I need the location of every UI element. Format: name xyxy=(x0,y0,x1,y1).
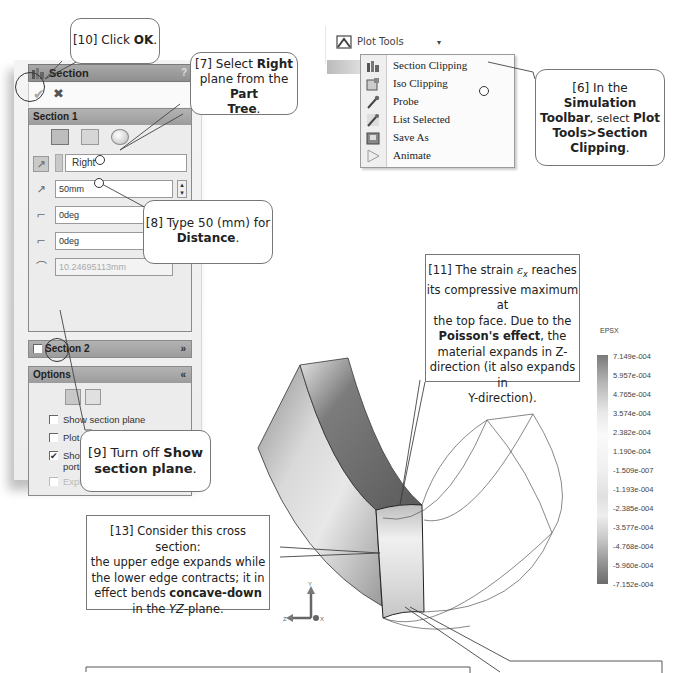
menu-item-list-selected[interactable]: List Selected xyxy=(361,111,514,129)
menu-item-save-as[interactable]: Save As xyxy=(361,129,514,147)
plot-tools-menu: Section Clipping Iso Clipping Probe List… xyxy=(360,54,515,168)
clipped-wireframe xyxy=(383,414,562,629)
callout-13: [13] Consider this cross section: the up… xyxy=(86,515,270,610)
panel-title-bar: Section ? xyxy=(28,64,192,82)
colorbar-tick: 7.149e-004 xyxy=(613,352,651,361)
section-clipping-icon xyxy=(366,59,380,73)
animate-icon xyxy=(366,149,380,163)
colorbar-tick: 2.382e-004 xyxy=(613,428,651,437)
reference-entity-icon[interactable]: ↗ xyxy=(33,156,49,172)
distance-spinner[interactable]: ▴▾ xyxy=(177,180,187,198)
show-section-plane-checkbox[interactable] xyxy=(49,415,58,424)
plot-on-section-only-checkbox[interactable] xyxy=(49,433,58,442)
panel-title: Section xyxy=(49,67,89,79)
show-contour-uncut-checkbox[interactable]: ✔ xyxy=(49,451,58,460)
help-icon[interactable]: ? xyxy=(181,65,187,81)
reference-marker-dot xyxy=(95,155,105,165)
options-label: Options xyxy=(33,369,71,380)
list-selected-icon xyxy=(366,113,380,127)
plot-tools-button[interactable]: Plot Tools xyxy=(357,36,404,47)
colorbar-tick: -3.577e-004 xyxy=(613,523,653,532)
spherical-section-button[interactable] xyxy=(111,129,129,145)
probe-icon xyxy=(366,95,380,109)
colorbar-tick: -7.152e-004 xyxy=(613,580,653,589)
radius-icon: ⌒ xyxy=(33,260,49,276)
explode-after-clipping-checkbox xyxy=(49,477,58,486)
colorbar xyxy=(597,355,608,584)
beam-side-face xyxy=(258,365,382,606)
reference-row: ↗ Right xyxy=(33,154,189,174)
solid-view-button[interactable] xyxy=(65,389,81,405)
distance-input[interactable]: 50mm xyxy=(55,180,173,198)
iso-clipping-icon xyxy=(366,77,380,91)
callout-8: [8] Type 50 (mm) for Distance. xyxy=(143,200,273,264)
colorbar-tick: -1.193e-004 xyxy=(613,485,653,494)
distance-row: ↗ 50mm ▴▾ xyxy=(33,180,189,200)
plot-tools-icon[interactable] xyxy=(336,35,352,49)
save-as-icon xyxy=(366,131,380,145)
callout-6: [6] In the Simulation Toolbar, select Pl… xyxy=(535,69,665,166)
colorbar-tick: -2.385e-004 xyxy=(613,504,653,513)
colorbar-tick: 1.190e-004 xyxy=(613,447,651,456)
menu-item-animate[interactable]: Animate xyxy=(361,147,514,165)
beam-cross-section xyxy=(376,505,424,618)
callout-11: [11] The strain εx reaches its compressi… xyxy=(425,254,580,382)
section2-checkbox[interactable] xyxy=(33,344,42,353)
reference-color-swatch xyxy=(55,154,63,172)
menu-item-iso-clipping[interactable]: Iso Clipping xyxy=(361,75,514,93)
menu-item-section-clipping[interactable]: Section Clipping xyxy=(361,57,514,75)
colorbar-tick: 3.574e-004 xyxy=(613,409,651,418)
svg-text:Y: Y xyxy=(308,581,312,587)
rotate-x-icon: ⌐ xyxy=(33,208,49,224)
transparent-view-button[interactable] xyxy=(85,389,101,405)
callout-7: [7] Select Right plane from the Part Tre… xyxy=(190,52,298,115)
coordinate-axes-icon: Y Z X xyxy=(283,580,328,630)
section-clipping-marker-dot xyxy=(479,86,489,96)
planar-section-button[interactable] xyxy=(51,129,69,145)
expand-chevron-icon[interactable]: » xyxy=(180,341,186,357)
distance-marker-dot xyxy=(94,178,104,188)
beam-top-face xyxy=(300,358,422,510)
collapse-chevron-icon[interactable]: « xyxy=(180,367,186,383)
colorbar-tick: -5.960e-004 xyxy=(613,561,653,570)
svg-text:Z: Z xyxy=(283,616,287,622)
reference-plane-field[interactable]: Right xyxy=(65,154,187,172)
plane-type-buttons xyxy=(51,129,129,145)
callout-9: [9] Turn off Show section plane. xyxy=(80,430,211,492)
colorbar-tick: 4.765e-004 xyxy=(613,390,651,399)
menu-item-probe[interactable]: Probe xyxy=(361,93,514,111)
cancel-button[interactable]: ✖ xyxy=(53,86,64,101)
cylindrical-section-button[interactable] xyxy=(81,129,99,145)
show-section-plane-highlight-circle xyxy=(45,338,69,362)
section1-header[interactable]: Section 1 xyxy=(29,109,191,125)
colorbar-tick: -4.768e-004 xyxy=(613,542,653,551)
distance-icon: ↗ xyxy=(33,182,49,198)
rotate-y-icon: ⌐ xyxy=(33,234,49,250)
callout-10: [10] Click OK. xyxy=(70,18,160,64)
chevron-down-icon[interactable]: ▾ xyxy=(437,38,441,47)
colorbar-tick: -1.509e-007 xyxy=(613,466,653,475)
ok-cancel-bar: ✔ ✖ xyxy=(28,83,192,107)
axis-triad: Y Z X xyxy=(283,580,328,630)
ok-highlight-circle xyxy=(15,72,45,102)
colorbar-tick: 5.957e-004 xyxy=(613,371,651,380)
option-view-buttons xyxy=(65,389,101,405)
colorbar-title: EPSX xyxy=(600,327,619,334)
svg-text:X: X xyxy=(320,616,324,622)
options-header[interactable]: Options « xyxy=(29,367,191,383)
